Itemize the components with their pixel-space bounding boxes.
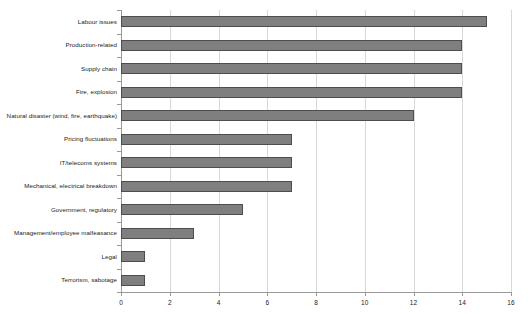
bar xyxy=(121,275,145,286)
gridline-2 xyxy=(170,10,171,292)
gridline-14 xyxy=(462,10,463,292)
x-tick-mark-6 xyxy=(267,292,268,296)
y-tick-mark-2 xyxy=(117,57,121,58)
y-tick-mark-8 xyxy=(117,198,121,199)
bar xyxy=(121,157,292,168)
category-label: Legal xyxy=(5,253,117,261)
x-tick-mark-10 xyxy=(365,292,366,296)
category-label: Production-related xyxy=(5,41,117,49)
category-labels: Labour issuesProduction-relatedSupply ch… xyxy=(0,10,117,292)
category-label: Supply chain xyxy=(5,65,117,73)
category-label: Terrorism, sabotage xyxy=(5,276,117,284)
x-tick-mark-4 xyxy=(219,292,220,296)
x-tick-label-16: 16 xyxy=(496,298,526,307)
category-label: Mechanical, electrical breakdown xyxy=(5,182,117,190)
category-label: Labour issues xyxy=(5,18,117,26)
y-axis-line xyxy=(121,10,122,292)
gridline-4 xyxy=(219,10,220,292)
gridline-10 xyxy=(365,10,366,292)
bar xyxy=(121,16,487,27)
category-label: Pricing fluctuations xyxy=(5,135,117,143)
y-tick-mark-0 xyxy=(117,10,121,11)
category-label: Government, regulatory xyxy=(5,206,117,214)
plot-area xyxy=(121,10,511,292)
x-tick-label-6: 6 xyxy=(252,298,282,307)
y-tick-mark-5 xyxy=(117,128,121,129)
y-tick-mark-10 xyxy=(117,245,121,246)
y-tick-mark-9 xyxy=(117,222,121,223)
x-tick-mark-8 xyxy=(316,292,317,296)
x-tick-label-0: 0 xyxy=(106,298,136,307)
x-tick-mark-2 xyxy=(170,292,171,296)
bar xyxy=(121,134,292,145)
y-tick-mark-1 xyxy=(117,34,121,35)
category-label: Fire, explosion xyxy=(5,88,117,96)
category-label: IT/telecoms systems xyxy=(5,159,117,167)
bar xyxy=(121,87,462,98)
gridline-12 xyxy=(414,10,415,292)
y-tick-mark-4 xyxy=(117,104,121,105)
gridline-6 xyxy=(267,10,268,292)
x-tick-mark-16 xyxy=(511,292,512,296)
gridline-8 xyxy=(316,10,317,292)
bar xyxy=(121,204,243,215)
x-tick-label-14: 14 xyxy=(447,298,477,307)
x-tick-label-4: 4 xyxy=(204,298,234,307)
bar xyxy=(121,110,414,121)
y-tick-mark-7 xyxy=(117,175,121,176)
gridline-16 xyxy=(511,10,512,292)
x-tick-label-10: 10 xyxy=(350,298,380,307)
y-tick-mark-3 xyxy=(117,81,121,82)
bar xyxy=(121,251,145,262)
x-tick-mark-12 xyxy=(414,292,415,296)
y-tick-mark-12 xyxy=(117,292,121,293)
y-tick-mark-6 xyxy=(117,151,121,152)
bar-chart: Labour issuesProduction-relatedSupply ch… xyxy=(0,0,532,314)
x-tick-label-12: 12 xyxy=(399,298,429,307)
bar xyxy=(121,40,462,51)
x-tick-label-8: 8 xyxy=(301,298,331,307)
bar xyxy=(121,181,292,192)
x-tick-mark-0 xyxy=(121,292,122,296)
category-label: Natural disaster (wind, fire, earthquake… xyxy=(5,112,117,120)
bar xyxy=(121,228,194,239)
category-label: Management/employee malfeasance xyxy=(5,229,117,237)
bar xyxy=(121,63,462,74)
x-tick-mark-14 xyxy=(462,292,463,296)
x-tick-label-2: 2 xyxy=(155,298,185,307)
y-tick-mark-11 xyxy=(117,269,121,270)
